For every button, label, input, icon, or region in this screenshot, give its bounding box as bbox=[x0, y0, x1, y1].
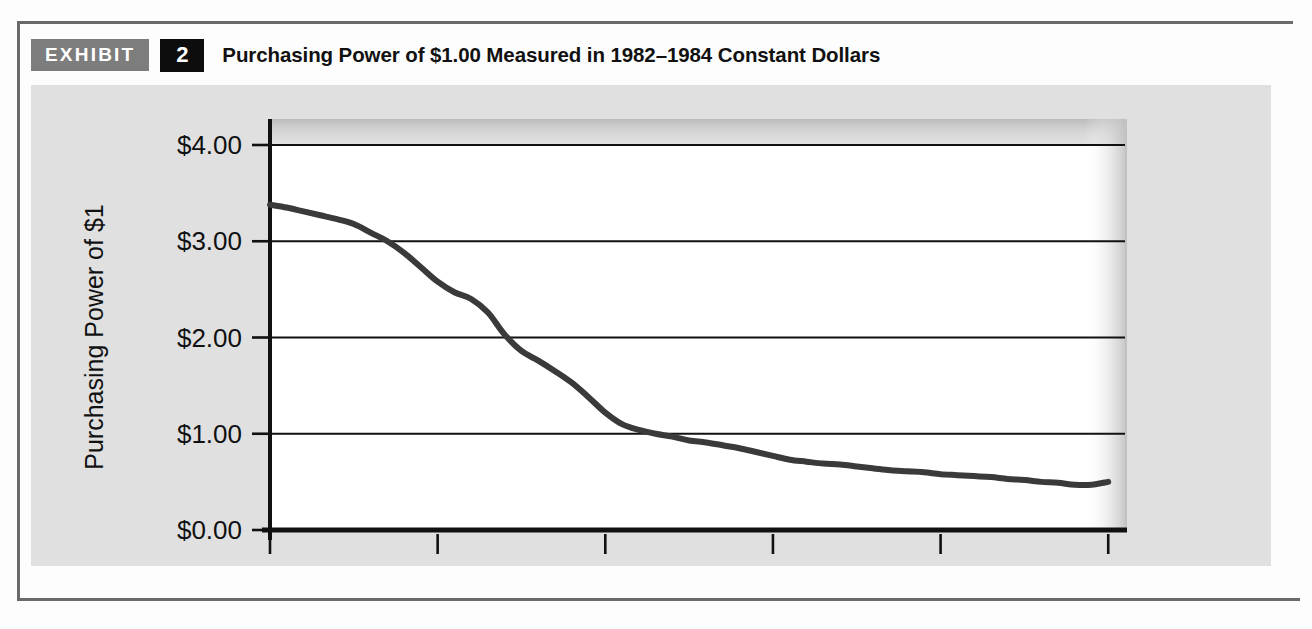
y-axis-tick-label: $1.00 bbox=[177, 419, 242, 449]
x-axis-tick-label: 2000 bbox=[911, 562, 971, 566]
plot-top-shadow bbox=[270, 119, 1125, 145]
y-axis-tick-label: $4.00 bbox=[177, 130, 242, 160]
exhibit-title: Purchasing Power of $1.00 Measured in 19… bbox=[222, 43, 880, 67]
chart-panel: $0.00$1.00$2.00$3.00$4.00 19601970198019… bbox=[31, 85, 1271, 566]
x-axis-tick-label: 1960 bbox=[240, 562, 300, 566]
exhibit-badge: EXHIBIT bbox=[31, 39, 149, 71]
x-axis-tick-label: 2010 bbox=[1078, 562, 1138, 566]
x-axis-tick-label: 1980 bbox=[575, 562, 635, 566]
exhibit-number-badge: 2 bbox=[160, 39, 204, 72]
y-axis-ticks bbox=[252, 145, 270, 530]
line-chart: $0.00$1.00$2.00$3.00$4.00 19601970198019… bbox=[31, 85, 1271, 566]
y-axis-tick-label: $0.00 bbox=[177, 515, 242, 545]
exhibit-header: EXHIBIT 2 Purchasing Power of $1.00 Meas… bbox=[31, 38, 880, 72]
x-axis-ticks bbox=[270, 534, 1108, 554]
y-axis-tick-label: $2.00 bbox=[177, 323, 242, 353]
y-axis-title: Purchasing Power of $1 bbox=[80, 204, 108, 469]
y-axis-tick-label: $3.00 bbox=[177, 226, 242, 256]
exhibit-bottom-rule bbox=[17, 598, 1300, 601]
y-axis-tick-labels: $0.00$1.00$2.00$3.00$4.00 bbox=[177, 130, 242, 545]
x-axis-tick-label: 1990 bbox=[743, 562, 803, 566]
exhibit-page: EXHIBIT 2 Purchasing Power of $1.00 Meas… bbox=[0, 0, 1312, 629]
x-axis-tick-labels: 196019701980199020002010 bbox=[240, 562, 1138, 566]
plot-right-shadow bbox=[1085, 119, 1127, 530]
x-axis-tick-label: 1970 bbox=[408, 562, 468, 566]
